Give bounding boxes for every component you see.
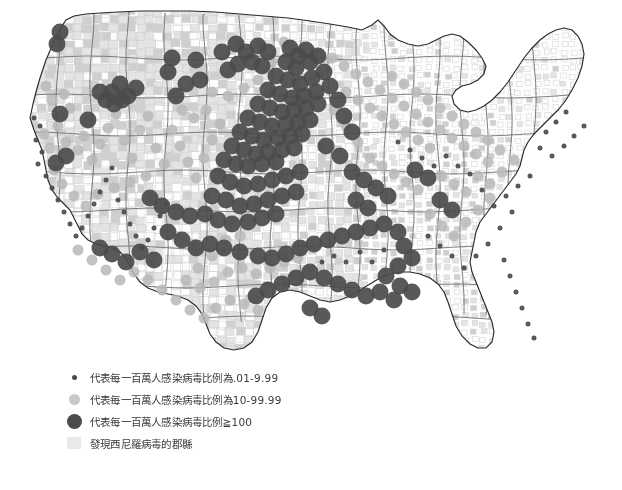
map-legend: 代表每一百萬人感染病毒比例為.01-9.99 代表每一百萬人感染病毒比例為10-… [58,366,388,454]
west-nile-virus-map-figure: 代表每一百萬人感染病毒比例為.01-9.99 代表每一百萬人感染病毒比例為10-… [0,0,622,490]
medium-gray-dot-icon [58,394,90,405]
legend-item-high: 代表每一百萬人感染病毒比例≧100 [58,410,388,432]
legend-item-mid-label: 代表每一百萬人感染病毒比例為10-99.99 [90,392,282,407]
legend-item-affected-county-label: 發現西尼羅病毒的郡縣 [90,436,192,451]
small-dark-dot-icon [58,375,90,380]
large-dark-dot-icon [58,414,90,429]
us-county-incidence-map [0,0,622,370]
legend-item-mid: 代表每一百萬人感染病毒比例為10-99.99 [58,388,388,410]
legend-item-low: 代表每一百萬人感染病毒比例為.01-9.99 [58,366,388,388]
legend-item-high-label: 代表每一百萬人感染病毒比例≧100 [90,414,252,429]
legend-item-low-label: 代表每一百萬人感染病毒比例為.01-9.99 [90,370,278,385]
legend-item-affected-county: 發現西尼羅病毒的郡縣 [58,432,388,454]
light-gray-square-icon [58,437,90,449]
